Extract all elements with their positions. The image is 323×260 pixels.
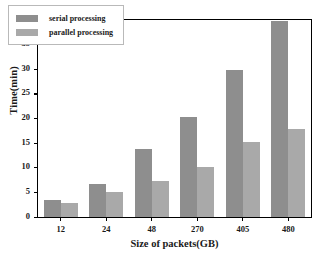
bar-parallel bbox=[288, 129, 305, 217]
y-tick-mark bbox=[34, 217, 38, 218]
plot-inner: 0510152025303540122448270405480 bbox=[38, 20, 311, 217]
x-tick-label: 12 bbox=[43, 224, 79, 234]
plot-area: 0510152025303540122448270405480 bbox=[37, 19, 312, 218]
y-tick-label: 0 bbox=[6, 211, 30, 221]
bar-serial bbox=[226, 70, 243, 217]
y-tick-mark bbox=[34, 93, 38, 94]
y-tick-label: 30 bbox=[6, 63, 30, 73]
y-tick-mark bbox=[34, 69, 38, 70]
y-tick-mark bbox=[34, 167, 38, 168]
x-tick-mark bbox=[242, 217, 243, 221]
x-tick-label: 48 bbox=[134, 224, 170, 234]
legend-swatch-parallel-icon bbox=[16, 29, 38, 36]
y-tick-label: 20 bbox=[6, 112, 30, 122]
bar-serial bbox=[89, 184, 106, 217]
y-tick-mark bbox=[34, 143, 38, 144]
x-tick-mark bbox=[197, 217, 198, 221]
x-tick-label: 480 bbox=[270, 224, 306, 234]
bar-parallel bbox=[243, 142, 260, 217]
bar-serial bbox=[180, 117, 197, 217]
x-tick-mark bbox=[60, 217, 61, 221]
bar-parallel bbox=[61, 203, 78, 217]
legend-item-serial: serial processing bbox=[16, 11, 113, 25]
y-tick-label: 25 bbox=[6, 87, 30, 97]
bar-serial bbox=[271, 21, 288, 217]
y-tick-label: 10 bbox=[6, 161, 30, 171]
legend-swatch-serial-icon bbox=[16, 15, 38, 22]
bar-parallel bbox=[197, 167, 214, 217]
y-tick-label: 5 bbox=[6, 186, 30, 196]
y-tick-label: 15 bbox=[6, 137, 30, 147]
bar-serial bbox=[44, 200, 61, 217]
x-tick-label: 24 bbox=[88, 224, 124, 234]
y-tick-mark bbox=[34, 118, 38, 119]
x-tick-mark bbox=[151, 217, 152, 221]
x-tick-label: 405 bbox=[225, 224, 261, 234]
x-axis-title: Size of packets(GB) bbox=[37, 238, 312, 249]
x-tick-mark bbox=[106, 217, 107, 221]
legend-item-parallel: parallel processing bbox=[16, 25, 113, 39]
y-tick-mark bbox=[34, 192, 38, 193]
x-tick-mark bbox=[288, 217, 289, 221]
bar-chart-figure: Time(min) Size of packets(GB) 0510152025… bbox=[0, 0, 323, 260]
chart-legend: serial processing parallel processing bbox=[8, 5, 124, 45]
x-tick-label: 270 bbox=[179, 224, 215, 234]
legend-label-parallel: parallel processing bbox=[49, 28, 113, 37]
bar-parallel bbox=[152, 181, 169, 217]
bar-parallel bbox=[106, 192, 123, 217]
bar-serial bbox=[135, 149, 152, 217]
legend-label-serial: serial processing bbox=[49, 14, 106, 23]
